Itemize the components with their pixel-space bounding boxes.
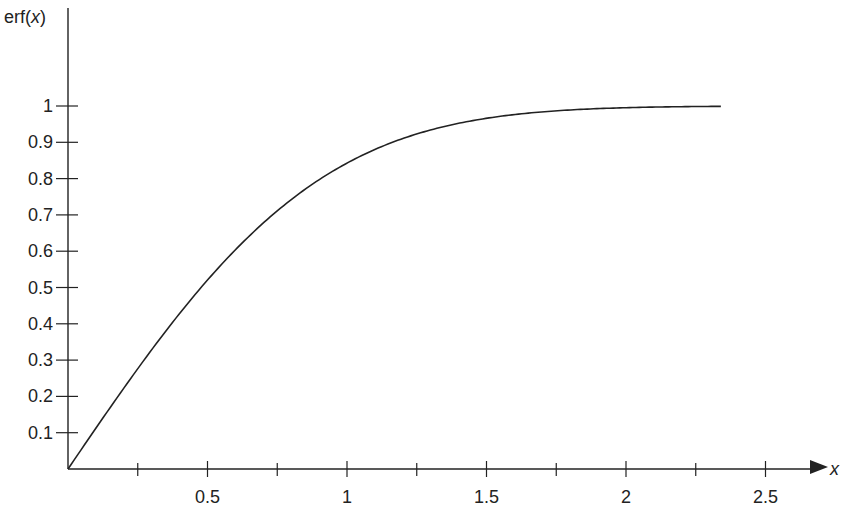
- y-tick-label: 0.6: [28, 241, 53, 261]
- y-tick-label: 0.3: [28, 350, 53, 370]
- x-tick-label: 1.5: [474, 487, 499, 507]
- y-tick-label: 0.7: [28, 205, 53, 225]
- y-axis-label: erf(x): [4, 7, 46, 27]
- tick-labels: 0.511.522.50.10.20.30.40.50.60.70.80.91: [28, 96, 778, 507]
- x-tick-label: 0.5: [195, 487, 220, 507]
- y-tick-label: 0.1: [28, 423, 53, 443]
- x-axis-arrow-icon: [810, 460, 828, 474]
- y-tick-label: 0.5: [28, 278, 53, 298]
- erf-chart: 0.511.522.50.10.20.30.40.50.60.70.80.91 …: [0, 0, 852, 517]
- y-tick-label: 0.8: [28, 169, 53, 189]
- y-tick-label: 1: [43, 96, 53, 116]
- x-tick-label: 1: [342, 487, 352, 507]
- ylabel-fn: erf(: [4, 7, 31, 27]
- ticks: [56, 106, 766, 477]
- y-tick-label: 0.2: [28, 386, 53, 406]
- x-axis-label: x: [829, 459, 840, 479]
- x-tick-label: 2: [621, 487, 631, 507]
- ylabel-close: ): [40, 7, 46, 27]
- axes: [68, 8, 812, 469]
- x-tick-label: 2.5: [753, 487, 778, 507]
- y-tick-label: 0.4: [28, 314, 53, 334]
- erf-curve: [68, 106, 721, 469]
- y-tick-label: 0.9: [28, 132, 53, 152]
